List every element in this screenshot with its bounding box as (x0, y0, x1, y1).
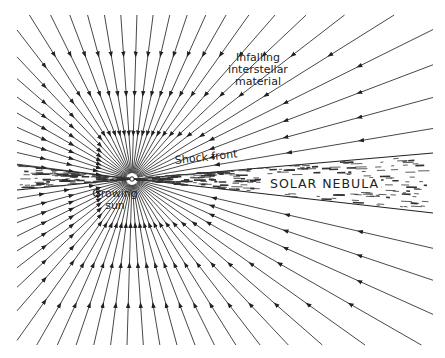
solar-nebula-diagram: Infalling interstellar material Shock fr… (0, 0, 445, 358)
growing-sun-icon (130, 177, 134, 181)
infalling-material-label: Infalling interstellar material (218, 52, 298, 88)
growing-sun-label: Growing sun (85, 188, 145, 212)
label-line: sun (85, 200, 145, 212)
solar-nebula-label: SOLAR NEBULA (268, 178, 381, 190)
label-line: material (218, 76, 298, 88)
